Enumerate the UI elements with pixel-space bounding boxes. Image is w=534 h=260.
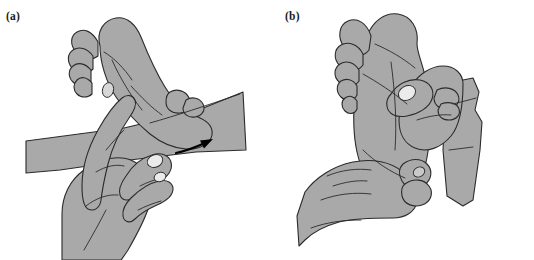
lower-finger-2 — [402, 180, 432, 206]
figure-root: (a) Lateral view of a foot and lower leg… — [0, 0, 534, 260]
panel-a-illustration — [0, 0, 267, 260]
panel-b: (b) Plantar view of the sole of the foot… — [267, 0, 534, 260]
panel-a: (a) Lateral view of a foot and lower leg… — [0, 0, 267, 260]
upper-finger-2 — [438, 103, 459, 120]
toe-5-b — [342, 96, 357, 113]
toe-4 — [74, 78, 92, 97]
panel-b-illustration — [267, 0, 534, 260]
